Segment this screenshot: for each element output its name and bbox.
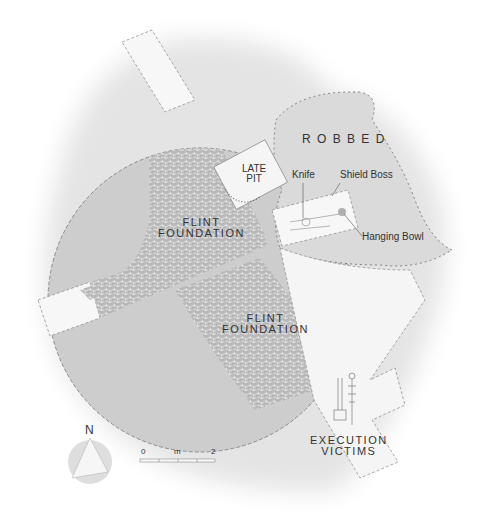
scale-end-label: 2 — [211, 448, 215, 456]
site-plan — [0, 0, 480, 516]
label-late-pit: LATE PIT — [242, 164, 266, 184]
label-flint-foundation-upper: FLINT FOUNDATION — [158, 217, 245, 239]
label-shield-boss: Shield Boss — [340, 170, 393, 180]
label-execution-line2: VICTIMS — [310, 446, 388, 457]
north-label: N — [85, 424, 94, 436]
label-robbed: R O B B E D — [302, 133, 386, 145]
label-flint-lower-line2: FOUNDATION — [222, 324, 309, 335]
label-late-pit-line2: PIT — [242, 174, 266, 184]
label-knife: Knife — [292, 170, 315, 180]
label-flint-upper-line2: FOUNDATION — [158, 228, 245, 239]
scale-start-label: 0 — [141, 448, 145, 456]
north-arrow-icon — [68, 438, 112, 484]
scale-bar — [140, 459, 215, 462]
label-hanging-bowl: Hanging Bowl — [362, 232, 424, 242]
scale-unit-label: m — [174, 448, 181, 456]
label-flint-foundation-lower: FLINT FOUNDATION — [222, 313, 309, 335]
label-execution-victims: EXECUTION VICTIMS — [310, 435, 388, 457]
